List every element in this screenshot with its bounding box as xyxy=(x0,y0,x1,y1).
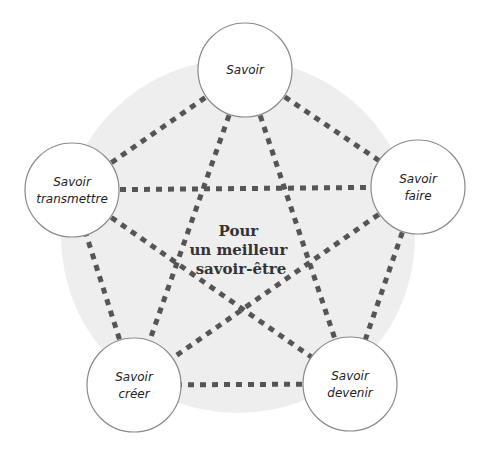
center-label-line-1: Pour xyxy=(219,222,260,240)
knowledge-pentagram-diagram: SavoirSavoirfaireSavoirdevenirSavoircrée… xyxy=(0,0,483,464)
center-label-line-2: un meilleur xyxy=(189,241,288,259)
node-label-line: créer xyxy=(118,387,150,401)
node-label-line: Savoir xyxy=(53,175,92,189)
node-circle xyxy=(371,140,465,234)
node-label-line: transmettre xyxy=(36,192,108,206)
node-circle xyxy=(87,338,181,432)
node-circle xyxy=(303,337,397,431)
node-savoir-transmettre: Savoirtransmettre xyxy=(25,143,119,237)
node-label-line: Savoir xyxy=(399,172,438,186)
node-label-line: Savoir xyxy=(331,369,370,383)
node-circle xyxy=(25,143,119,237)
node-savoir-creer: Savoircréer xyxy=(87,338,181,432)
node-label: Savoir xyxy=(226,63,265,77)
center-label-line-3: savoir-être xyxy=(196,260,287,278)
node-label-line: faire xyxy=(404,189,431,203)
node-savoir-faire: Savoirfaire xyxy=(371,140,465,234)
node-savoir-devenir: Savoirdevenir xyxy=(303,337,397,431)
node-savoir: Savoir xyxy=(198,23,292,117)
node-label-line: Savoir xyxy=(115,370,154,384)
node-label-line: devenir xyxy=(327,386,373,400)
node-label-line: Savoir xyxy=(226,63,265,77)
